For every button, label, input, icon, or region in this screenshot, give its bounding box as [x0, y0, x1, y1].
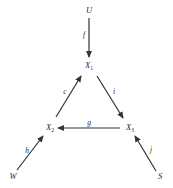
node-s-label: S [158, 171, 162, 181]
edge-j-label: j [150, 146, 152, 154]
edge-f-label: f [83, 31, 85, 39]
node-u: U [86, 6, 92, 15]
node-x1-subscript: 1 [90, 65, 93, 71]
edge-i-label: i [113, 88, 115, 96]
node-x3: X3 [126, 123, 134, 133]
edge-c-arrow [56, 76, 81, 117]
edge-g-label: g [87, 119, 91, 127]
node-w: W [9, 172, 16, 181]
node-x1: X1 [85, 61, 93, 71]
edge-i-arrow [97, 76, 123, 118]
node-x3-subscript: 3 [131, 127, 134, 133]
edges-layer [0, 0, 173, 188]
node-x2-subscript: 2 [51, 127, 54, 133]
edge-c-label: c [63, 88, 66, 96]
node-u-label: U [86, 5, 92, 15]
node-w-label: W [9, 171, 16, 181]
edge-h-arrow [17, 136, 43, 170]
edge-j-arrow [135, 136, 156, 171]
node-s: S [158, 172, 162, 181]
node-x2: X2 [46, 123, 54, 133]
flow-diagram: U X1 X2 X3 W S f c i g h j [0, 0, 173, 188]
edge-h-label: h [25, 147, 29, 155]
